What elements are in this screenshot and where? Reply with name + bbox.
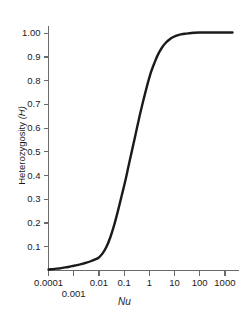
chart-canvas (0, 0, 249, 321)
y-tick-label: 0.3 (27, 194, 40, 204)
y-tick-label: 0.8 (27, 76, 40, 86)
chart-figure: 0.10.20.30.40.50.60.70.80.91.00 0.00010.… (0, 0, 249, 321)
x-tick-label: 1000 (185, 278, 249, 288)
y-tick-label: 0.4 (27, 171, 40, 181)
axes-group (44, 26, 239, 276)
y-tick-label: 0.7 (27, 99, 40, 109)
y-tick-label: 0.6 (27, 123, 40, 133)
x-axis-title: Nu (0, 296, 249, 307)
y-tick-label: 1.00 (22, 28, 41, 38)
data-line-0 (49, 33, 233, 270)
y-tick-label: 0.1 (27, 242, 40, 252)
y-tick-label: 0.2 (27, 218, 40, 228)
y-axis-title: Heterozygosity (H) (16, 71, 27, 221)
y-tick-label: 0.9 (27, 52, 40, 62)
data-series-group (49, 33, 233, 270)
y-tick-label: 0.5 (27, 147, 40, 157)
